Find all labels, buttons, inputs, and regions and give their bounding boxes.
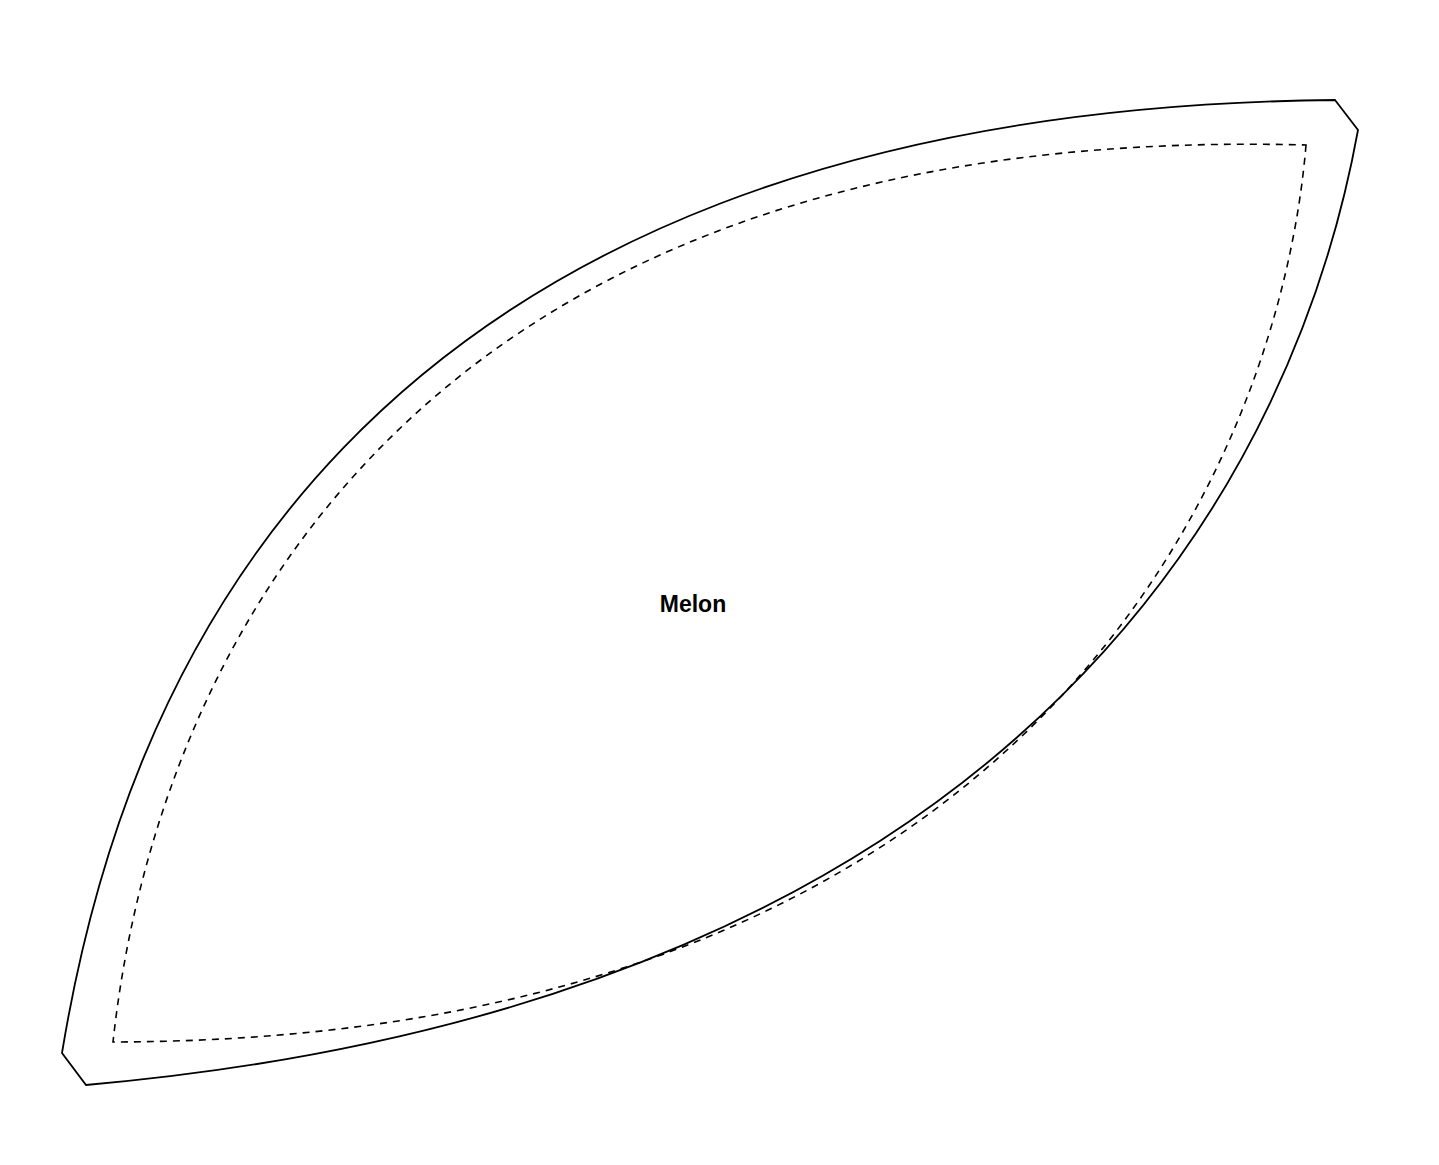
template-canvas — [0, 0, 1439, 1165]
shape-label: Melon — [660, 591, 726, 618]
